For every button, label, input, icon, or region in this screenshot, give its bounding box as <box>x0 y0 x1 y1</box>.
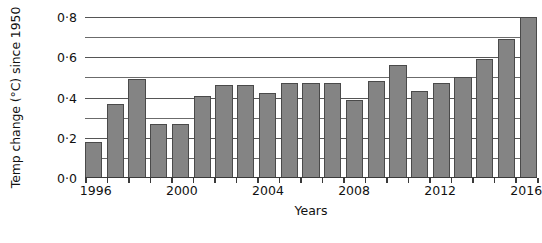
bar <box>259 93 276 178</box>
bar <box>150 124 167 178</box>
x-axis-tick-label: 1996 <box>80 183 112 198</box>
temperature-change-bar-chart: Temp change (°C) since 1950 0·00·20·40·6… <box>0 0 542 243</box>
bar <box>476 59 493 178</box>
bar <box>281 83 298 178</box>
bar <box>128 79 145 178</box>
plot-area <box>85 17 537 178</box>
bar <box>411 91 428 178</box>
x-axis-title: Years <box>85 203 537 218</box>
bar <box>520 17 537 178</box>
bar <box>172 124 189 178</box>
x-axis-tick-label: 2012 <box>424 183 456 198</box>
y-axis-tick-label: 0·2 <box>57 130 83 145</box>
y-axis-tick-label: 0·8 <box>57 10 83 25</box>
x-axis-tick-label: 2016 <box>510 183 542 198</box>
bar <box>389 65 406 178</box>
y-axis-tick-label: 0·6 <box>57 50 83 65</box>
y-axis-tick-label: 0·4 <box>57 90 83 105</box>
x-axis-tick-label: 2008 <box>338 183 370 198</box>
bar-series <box>85 17 537 178</box>
bar <box>85 142 102 178</box>
bar <box>324 83 341 178</box>
x-axis-tick-label: 2000 <box>166 183 198 198</box>
bar <box>433 83 450 178</box>
bar <box>302 83 319 178</box>
bar <box>498 39 515 178</box>
x-axis-tick-labels: 199620002004200820122016 <box>85 183 537 203</box>
bar <box>237 85 254 178</box>
bar <box>215 85 232 178</box>
y-axis-tick-labels: 0·00·20·40·60·8 <box>55 17 83 178</box>
bar <box>346 100 363 178</box>
y-axis-title-container: Temp change (°C) since 1950 <box>0 0 26 200</box>
bar <box>107 104 124 178</box>
bar <box>368 81 385 178</box>
x-axis-tick-label: 2004 <box>252 183 284 198</box>
bar <box>194 96 211 179</box>
bar <box>454 77 471 178</box>
y-axis-title: Temp change (°C) since 1950 <box>8 0 23 196</box>
